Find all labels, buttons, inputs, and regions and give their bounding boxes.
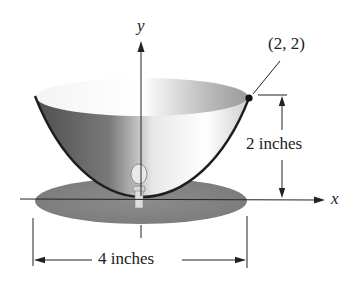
diagram-graphics [0,0,363,282]
height-label: 2 inches [245,134,303,154]
width-label: 4 inches [96,249,156,269]
point-label: (2, 2) [268,34,305,54]
point-2-2 [245,61,280,102]
paraboloid-bowl-figure: y x (2, 2) 2 inches 4 inches [0,0,363,282]
y-axis-label: y [137,16,145,36]
x-axis-label: x [331,189,339,209]
